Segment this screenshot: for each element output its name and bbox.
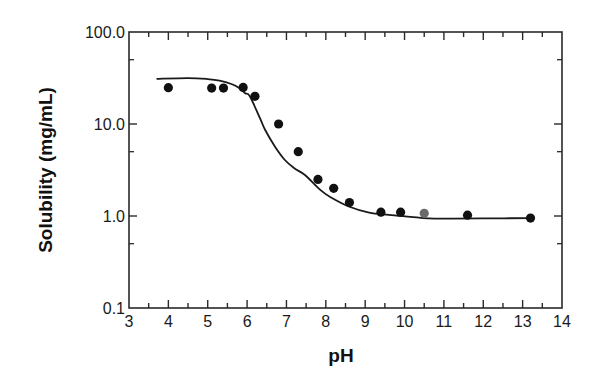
y-tick-label: 100.0 bbox=[85, 24, 125, 41]
x-tick-label: 3 bbox=[125, 313, 134, 330]
data-point bbox=[376, 208, 385, 217]
data-point bbox=[274, 119, 283, 128]
solubility-chart: 345678910111213140.11.010.0100.0 pH Solu… bbox=[0, 0, 600, 384]
y-tick-label: 10.0 bbox=[94, 116, 125, 133]
x-tick-label: 5 bbox=[203, 313, 212, 330]
x-tick-label: 14 bbox=[553, 313, 571, 330]
x-tick-label: 4 bbox=[164, 313, 173, 330]
data-points bbox=[164, 83, 535, 223]
plot-frame bbox=[129, 32, 562, 308]
axis-labels: pH Solubility (mg/mL) bbox=[35, 87, 354, 366]
x-tick-label: 13 bbox=[514, 313, 532, 330]
x-tick-label: 10 bbox=[396, 313, 414, 330]
fit-curve bbox=[157, 78, 531, 219]
x-axis-title: pH bbox=[328, 345, 353, 366]
data-point bbox=[526, 213, 535, 222]
y-axis-title: Solubility (mg/mL) bbox=[35, 87, 56, 253]
data-point bbox=[396, 208, 405, 217]
x-tick-label: 12 bbox=[474, 313, 492, 330]
data-point bbox=[250, 92, 259, 101]
data-point bbox=[294, 147, 303, 156]
x-tick-label: 9 bbox=[361, 313, 370, 330]
x-tick-label: 6 bbox=[243, 313, 252, 330]
data-point bbox=[463, 211, 472, 220]
y-tick-label: 1.0 bbox=[103, 208, 125, 225]
data-point bbox=[219, 83, 228, 92]
data-point bbox=[239, 83, 248, 92]
axes: 345678910111213140.11.010.0100.0 bbox=[85, 24, 571, 330]
data-point bbox=[207, 83, 216, 92]
data-point bbox=[345, 198, 354, 207]
fit-line bbox=[157, 78, 531, 219]
x-tick-label: 8 bbox=[321, 313, 330, 330]
data-point bbox=[329, 184, 338, 193]
data-point bbox=[164, 83, 173, 92]
y-tick-label: 0.1 bbox=[103, 300, 125, 317]
x-tick-label: 11 bbox=[436, 313, 453, 330]
data-point bbox=[420, 209, 429, 218]
x-tick-label: 7 bbox=[282, 313, 291, 330]
data-point bbox=[313, 175, 322, 184]
